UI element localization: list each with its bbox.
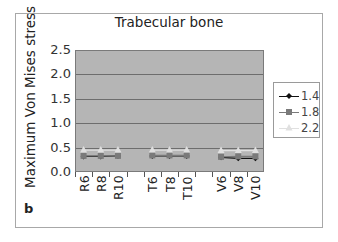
y-tick-label: 1.0 xyxy=(41,115,71,130)
legend-item: 1.4 xyxy=(277,89,319,103)
triangle-marker-icon xyxy=(284,123,294,133)
y-tick-label: 1.5 xyxy=(41,91,71,106)
x-tick-label: R6 xyxy=(77,175,92,192)
x-tick-label: V8 xyxy=(231,175,246,192)
x-tick-label: R8 xyxy=(94,175,109,192)
legend-label: 1.4 xyxy=(301,89,319,103)
y-tick-label: 0.0 xyxy=(41,164,71,179)
x-tick-mark xyxy=(127,172,128,177)
x-tick-label: V6 xyxy=(214,175,229,192)
y-tick-label: 2.0 xyxy=(41,66,71,81)
square-marker-icon xyxy=(284,107,294,117)
diamond-marker-icon xyxy=(284,91,294,101)
x-tick-label: T6 xyxy=(145,176,160,192)
legend-item: 1.8 xyxy=(277,105,319,119)
y-tick-label: 2.5 xyxy=(41,42,71,57)
legend-label: 1.8 xyxy=(301,105,319,119)
x-tick-mark xyxy=(195,172,196,177)
data-series xyxy=(75,50,264,172)
legend-label: 2.2 xyxy=(301,121,319,135)
y-axis-label: Maximum Von Mises stress xyxy=(22,28,38,188)
legend: 1.41.82.2 xyxy=(273,82,320,138)
legend-item: 2.2 xyxy=(277,121,319,135)
x-tick-label: V10 xyxy=(248,176,263,200)
x-tick-label: T8 xyxy=(163,176,178,192)
x-tick-mark xyxy=(161,172,162,177)
panel-label: b xyxy=(24,201,33,216)
chart-title: Trabecular bone xyxy=(0,14,338,30)
x-tick-mark xyxy=(178,172,179,177)
x-tick-label: T10 xyxy=(180,176,195,200)
y-tick-label: 0.5 xyxy=(41,140,71,155)
x-tick-mark xyxy=(75,172,76,177)
x-tick-label: R10 xyxy=(111,175,126,200)
